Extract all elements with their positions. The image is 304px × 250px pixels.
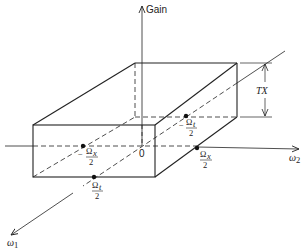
box-top-right-edge (155, 63, 237, 125)
label-neg-omega-x-half: − Ω x 2 (78, 146, 98, 167)
svg-text:t: t (193, 119, 196, 129)
svg-text:Ω: Ω (92, 180, 98, 190)
svg-text:t: t (99, 182, 102, 192)
svg-text:−: − (78, 149, 83, 159)
svg-text:2: 2 (189, 128, 193, 138)
omega1-axis-label: ω1 (7, 237, 18, 250)
tx-label: TX (256, 85, 269, 96)
point-pos-omega-x-half (195, 146, 199, 150)
label-neg-omega-t-half: − Ω t 2 (179, 117, 197, 138)
omega2-axis-right (197, 147, 299, 149)
omega1-axis-upper (237, 51, 285, 83)
label-pos-omega-x-half: Ω x 2 (200, 149, 212, 170)
svg-text:2: 2 (89, 157, 93, 167)
svg-text:Ω: Ω (186, 117, 192, 127)
point-neg-omega-x-half (81, 144, 85, 148)
origin-label: 0 (139, 148, 145, 159)
svg-text:−: − (179, 120, 184, 130)
label-pos-omega-t-half: Ω t 2 (92, 180, 103, 201)
omega2-axis-label: ω2 (289, 152, 300, 165)
svg-text:Ω: Ω (86, 146, 92, 156)
svg-text:Ω: Ω (200, 149, 206, 159)
svg-text:2: 2 (203, 160, 207, 170)
omega1-axis-lower (11, 193, 73, 235)
frequency-response-diagram: Gain ω2 ω1 0 TX − Ω x 2 Ω x 2 Ω t 2 − Ω … (0, 0, 304, 250)
svg-text:2: 2 (95, 191, 99, 201)
point-pos-omega-t-half (92, 175, 96, 179)
gain-axis-label: Gain (146, 4, 167, 15)
box-top-left-edge (33, 63, 135, 125)
